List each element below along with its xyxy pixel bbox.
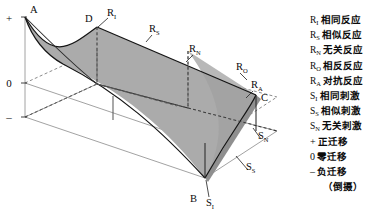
legend-s-s: SS 相似刺激 <box>310 103 378 118</box>
legend-s-i: SI 相同刺激 <box>310 88 378 103</box>
legend-symbol-sub: N <box>315 125 320 132</box>
curve-label-S-S: SS <box>246 161 256 174</box>
legend-text: 正迁移 <box>318 136 348 147</box>
legend-symbol-sub: N <box>316 49 321 56</box>
legend-symbol-sub: I <box>316 19 318 26</box>
legend-symbol-sub: S <box>315 110 319 117</box>
legend-r-s: RS 相似反应 <box>310 27 378 42</box>
legend-r-i: RI 相同反应 <box>310 12 378 27</box>
axis-ticks <box>21 17 27 117</box>
leader-R-N <box>186 55 193 62</box>
legend-r-a: RA 对抗反应 <box>310 73 378 88</box>
legend-text: 无关反应 <box>323 44 363 55</box>
legend-symbol: – <box>310 166 315 177</box>
leader-R-S <box>146 35 152 42</box>
legend-text: 负迁移 <box>317 166 347 177</box>
curve-label-R-I: RI <box>107 7 116 20</box>
legend-text: 无关刺激 <box>322 120 362 131</box>
figure-root: + 0 – A D B C RI RS RN RO RA SI <box>0 0 378 212</box>
legend-r-o: RO 相反反应 <box>310 58 378 73</box>
legend-plus: + 正迁移 <box>310 134 378 149</box>
legend-text: 相似反应 <box>322 29 362 40</box>
curve-label-R-O: RO <box>236 61 248 74</box>
curve-label-R-A: RA <box>251 79 263 92</box>
axis-label-zero: 0 <box>6 77 12 89</box>
leader-R-I <box>98 18 108 27</box>
vertex-label-B: B <box>190 193 197 204</box>
axis-value-labels: + 0 – <box>5 12 12 123</box>
legend-text: （倒摄） <box>323 181 363 192</box>
legend-text: 对抗反应 <box>323 75 363 86</box>
legend-s-n: SN 无关刺激 <box>310 118 378 133</box>
leader-S-I <box>206 180 209 197</box>
legend-symbol: + <box>310 136 316 147</box>
axis-label-plus: + <box>6 12 12 24</box>
legend-symbol-sub: S <box>316 34 320 41</box>
legend-text: 零迁移 <box>317 151 347 162</box>
legend-minus: – 负迁移 <box>310 164 378 179</box>
legend-text: 相同反应 <box>321 14 361 25</box>
legend: RI 相同反应RS 相似反应RN 无关反应RO 相反反应RA 对抗反应SI 相同… <box>310 12 378 194</box>
transfer-surface-diagram: + 0 – A D B C RI RS RN RO RA SI <box>0 0 300 212</box>
legend-zero: 0 零迁移 <box>310 149 378 164</box>
legend-symbol-sub: A <box>316 80 321 87</box>
legend-text: 相同刺激 <box>320 90 360 101</box>
curve-label-R-N: RN <box>189 43 201 56</box>
legend-text: 相似刺激 <box>321 105 361 116</box>
vertex-label-A: A <box>30 4 38 15</box>
legend-symbol-sub: O <box>316 65 321 72</box>
curve-label-S-I: SI <box>206 197 214 210</box>
legend-text: 相反反应 <box>323 60 363 71</box>
vertex-label-C: C <box>261 92 268 103</box>
leader-R-O <box>240 73 247 80</box>
legend-symbol-sub: I <box>315 95 317 102</box>
legend-symbol: 0 <box>310 151 315 162</box>
legend-note: （倒摄） <box>310 179 378 194</box>
axis-label-minus: – <box>5 111 12 123</box>
vertex-label-D: D <box>85 13 93 24</box>
diagram-svg: + 0 – A D B C RI RS RN RO RA SI <box>0 0 300 212</box>
curve-label-R-S: RS <box>149 23 160 36</box>
curve-label-S-N: SN <box>258 130 269 143</box>
legend-r-n: RN 无关反应 <box>310 42 378 57</box>
